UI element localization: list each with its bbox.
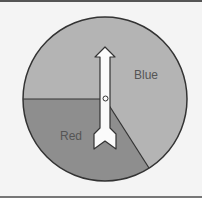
red-label: Red	[60, 129, 82, 143]
spinner-figure: Blue Red	[0, 0, 202, 198]
blue-label: Blue	[134, 68, 158, 82]
pivot-icon	[103, 96, 108, 101]
spinner-diagram: Blue Red	[0, 0, 202, 198]
